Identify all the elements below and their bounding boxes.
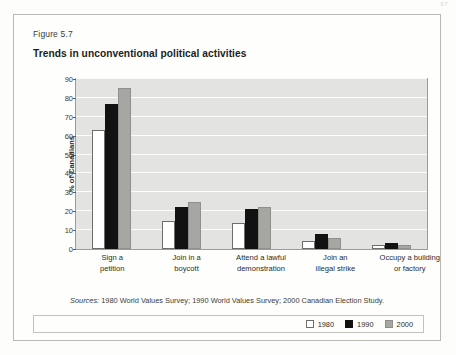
bar-1990-2[interactable] <box>175 207 188 249</box>
bar-chart: % of Canadians 0102030405060708090 <box>56 78 428 250</box>
legend-label-1990: 1990 <box>357 320 373 329</box>
y-tick-label: 10 <box>65 226 73 235</box>
y-tick-label: 0 <box>69 245 73 254</box>
x-axis-label-2: Join in aboycott <box>151 253 223 274</box>
figure-title: Trends in unconventional political activ… <box>33 48 246 59</box>
bar-2000-1[interactable] <box>118 88 131 249</box>
bar-2000-2[interactable] <box>188 202 201 249</box>
bar-1990-1[interactable] <box>105 104 118 249</box>
bar-1980-4[interactable] <box>302 241 315 249</box>
y-tick-label: 30 <box>65 188 73 197</box>
y-tick-label: 70 <box>65 112 73 121</box>
x-axis-label-4: Join anillegal strike <box>299 253 371 274</box>
sources-note: Sources: 1980 World Values Survey; 1990 … <box>14 296 440 305</box>
y-tick-label: 20 <box>65 207 73 216</box>
bar-1990-3[interactable] <box>245 209 258 249</box>
bar-group <box>372 79 411 249</box>
bar-1990-5[interactable] <box>385 243 398 249</box>
bar-1990-4[interactable] <box>315 234 328 249</box>
y-tick-label: 80 <box>65 93 73 102</box>
legend-item-1980[interactable]: 1980 <box>306 320 334 329</box>
bar-2000-3[interactable] <box>258 207 271 249</box>
sources-lead: Sources: <box>70 296 99 305</box>
bar-1980-1[interactable] <box>92 130 105 249</box>
legend-item-1990[interactable]: 1990 <box>345 320 373 329</box>
x-axis-label-3: Attend a lawfuldemonstration <box>225 253 297 274</box>
sources-text: 1980 World Values Survey; 1990 World Val… <box>99 296 384 305</box>
bar-2000-5[interactable] <box>398 245 411 249</box>
y-tick-label: 90 <box>65 75 73 84</box>
x-axis-labels: Sign apetitionJoin in aboycottAttend a l… <box>75 253 447 274</box>
y-tick-mark <box>73 249 76 250</box>
bar-1980-2[interactable] <box>162 221 175 249</box>
bar-1980-3[interactable] <box>232 223 245 249</box>
legend-label-2000: 2000 <box>397 320 413 329</box>
legend-swatch-1980 <box>306 320 314 328</box>
legend-swatch-2000 <box>385 320 393 328</box>
bar-1980-5[interactable] <box>372 245 385 249</box>
plot-area: 0102030405060708090 <box>75 78 428 250</box>
x-axis-label-5: Occupy a buildingor factory <box>374 253 446 274</box>
legend-item-2000[interactable]: 2000 <box>385 320 413 329</box>
figure-container: Figure 5.7 Trends in unconventional poli… <box>13 14 441 341</box>
figure-label: Figure 5.7 <box>33 29 73 39</box>
legend-label-1980: 1980 <box>318 320 334 329</box>
bar-group <box>92 79 131 249</box>
y-tick-label: 40 <box>65 169 73 178</box>
bar-2000-4[interactable] <box>328 238 341 249</box>
y-tick-label: 60 <box>65 131 73 140</box>
bar-groups <box>76 79 427 249</box>
y-tick-label: 50 <box>65 150 73 159</box>
page-number: 97 <box>440 1 448 7</box>
x-axis-label-1: Sign apetition <box>76 253 148 274</box>
bar-group <box>302 79 341 249</box>
bar-group <box>162 79 201 249</box>
bar-group <box>232 79 271 249</box>
chart-legend: 198019902000 <box>33 315 424 333</box>
legend-swatch-1990 <box>345 320 353 328</box>
